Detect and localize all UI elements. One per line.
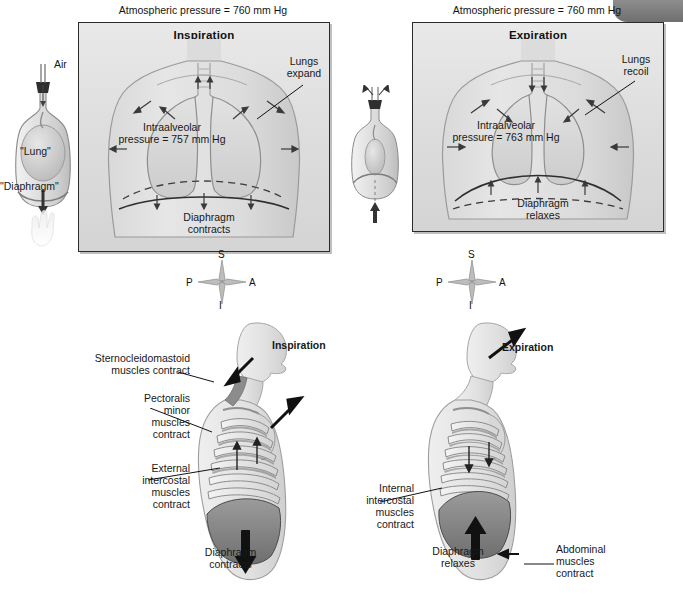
expiration-panel: Expiration — [412, 22, 664, 232]
compass-anterior-label-left: A — [249, 277, 256, 288]
compass-posterior-label-left: P — [186, 277, 193, 288]
lateral-expiration-title: Expiration — [502, 341, 553, 353]
bell-jar-diaphragm-label: "Diaphragm" — [0, 180, 59, 192]
diaphragm-contracts-label-panel: Diaphragm contracts — [164, 211, 254, 235]
compass-superior-label-left: S — [218, 249, 225, 260]
inspiration-panel: Inspiration — [78, 22, 330, 252]
diaphragm-relaxes-label-panel: Diaphragm relaxes — [498, 197, 588, 221]
lungs-recoil-label: Lungs recoil — [609, 53, 663, 77]
sternocleidomastoid-leader — [178, 370, 214, 384]
lateral-inspiration-title: Inspiration — [272, 339, 326, 351]
abdominal-muscles-label: Abdominal muscles contract — [556, 543, 666, 579]
atmospheric-pressure-label-right: Atmospheric pressure = 760 mm Hg — [412, 4, 662, 16]
compass-inferior-label-right: I — [469, 300, 472, 311]
artist-signature — [625, 183, 628, 193]
atmospheric-pressure-label-left: Atmospheric pressure = 760 mm Hg — [78, 4, 328, 16]
internal-intercostal-leader — [380, 486, 442, 504]
bell-jar-model-middle — [340, 85, 410, 225]
bell-jar-model-left: Air "Lung" "Diaphragm" — [2, 52, 88, 252]
bell-jar-air-label: Air — [54, 58, 67, 70]
diaphragm-contracts-label-lateral: Diaphragm contracts — [178, 546, 283, 570]
intraalveolar-pressure-label-right: Intraalveolar pressure = 763 mm Hg — [431, 119, 581, 143]
sternocleidomastoid-label: Sternocleidomastoid muscles contract — [60, 352, 190, 376]
lungs-expand-label: Lungs expand — [274, 55, 334, 79]
bell-jar-lung-label: "Lung" — [20, 145, 51, 157]
abdominal-muscles-leader — [524, 552, 554, 556]
orientation-compass-left: S P A I — [182, 252, 262, 312]
orientation-compass-right: S P A I — [432, 252, 512, 312]
compass-anterior-label-right: A — [499, 277, 506, 288]
compass-inferior-label-left: I — [219, 300, 222, 311]
intraalveolar-pressure-label-left: Intraalveolar pressure = 757 mm Hg — [97, 121, 247, 145]
compass-posterior-label-right: P — [436, 277, 443, 288]
external-intercostal-leader — [148, 466, 220, 484]
compass-superior-label-right: S — [468, 249, 475, 260]
diaphragm-relaxes-label-lateral: Diaphragm relaxes — [408, 545, 508, 569]
pectoralis-minor-leader — [150, 408, 212, 434]
